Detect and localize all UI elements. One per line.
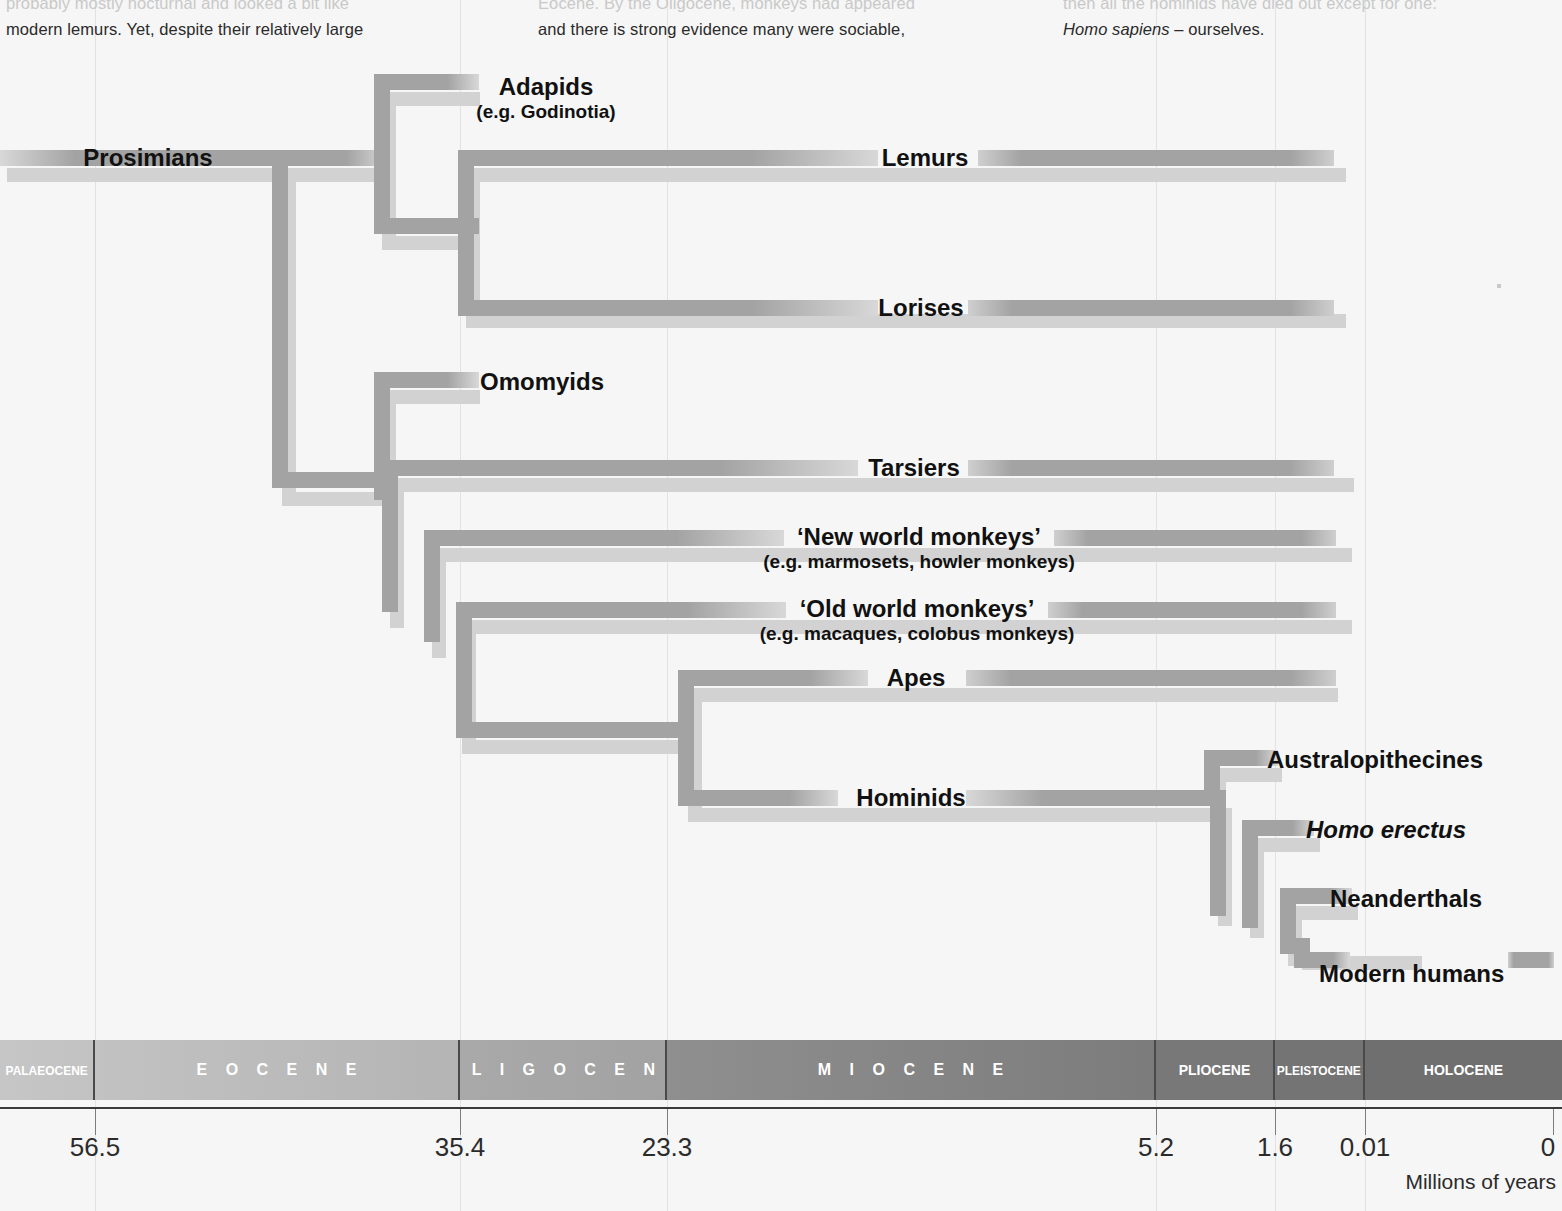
epoch-holocene-label: HOLOCENE <box>1424 1062 1503 1078</box>
epoch-oligocene-label: O L I G O C E N E <box>460 1061 667 1079</box>
new-world-monkeys-example: (e.g. marmosets, howler monkeys) <box>763 551 1075 572</box>
taxon-label-lorises: Lorises <box>878 295 963 322</box>
tick-label-35-4: 35.4 <box>435 1132 486 1163</box>
taxon-label-prosimians: Prosimians <box>83 145 212 172</box>
tick-label-5-2: 5.2 <box>1138 1132 1174 1163</box>
epoch-eocene-label: E O C E N E <box>190 1061 364 1079</box>
epoch-holocene[interactable]: HOLOCENE <box>1365 1040 1562 1100</box>
taxon-label-lemurs: Lemurs <box>882 145 969 172</box>
taxon-label-modern-humans: Modern humans <box>1319 961 1504 988</box>
tick-label-0-01: 0.01 <box>1340 1132 1391 1163</box>
epoch-pliocene[interactable]: PLIOCENE <box>1156 1040 1275 1100</box>
taxon-label-neanderthals: Neanderthals <box>1330 886 1482 913</box>
epoch-pleistocene[interactable]: PLEISTOCENE <box>1275 1040 1365 1100</box>
taxon-label-australopithecines: Australopithecines <box>1267 747 1483 774</box>
geologic-timeline: PALAEOCENE E O C E N E O L I G O C E N E… <box>0 1040 1562 1100</box>
epoch-pliocene-label: PLIOCENE <box>1179 1062 1251 1078</box>
tick-label-0: 0 <box>1541 1132 1555 1163</box>
epoch-palaeocene-label: PALAEOCENE <box>5 1063 87 1078</box>
taxon-label-apes: Apes <box>887 665 946 692</box>
epoch-eocene[interactable]: E O C E N E <box>95 1040 460 1100</box>
tick-label-1-6: 1.6 <box>1257 1132 1293 1163</box>
old-world-monkeys-name: ‘Old world monkeys’ <box>800 595 1035 622</box>
figure-root: probably mostly nocturnal and looked a b… <box>0 0 1562 1211</box>
tick-label-23-3: 23.3 <box>642 1132 693 1163</box>
epoch-miocene[interactable]: M I O C E N E <box>667 1040 1156 1100</box>
old-world-monkeys-example: (e.g. macaques, colobus monkeys) <box>760 623 1075 644</box>
taxon-label-tarsiers: Tarsiers <box>868 455 960 482</box>
time-axis-line <box>0 1107 1562 1109</box>
tick-label-56-5: 56.5 <box>70 1132 121 1163</box>
epoch-palaeocene[interactable]: PALAEOCENE <box>0 1040 95 1100</box>
adapids-name: Adapids <box>499 73 594 100</box>
taxon-label-old-world-monkeys: ‘Old world monkeys’ (e.g. macaques, colo… <box>760 596 1075 644</box>
epoch-pleistocene-label: PLEISTOCENE <box>1277 1063 1361 1078</box>
taxon-label-new-world-monkeys: ‘New world monkeys’ (e.g. marmosets, how… <box>763 524 1075 572</box>
epoch-oligocene[interactable]: O L I G O C E N E <box>460 1040 667 1100</box>
taxon-label-omomyids: Omomyids <box>480 369 604 396</box>
taxon-label-hominids: Hominids <box>856 785 965 812</box>
taxon-label-homo-erectus: Homo erectus <box>1306 817 1466 844</box>
new-world-monkeys-name: ‘New world monkeys’ <box>797 523 1041 550</box>
cladogram-branches <box>0 0 1562 1025</box>
adapids-example: (e.g. Godinotia) <box>476 101 615 122</box>
epoch-miocene-label: M I O C E N E <box>811 1061 1010 1079</box>
axis-unit-label: Millions of years <box>1405 1170 1556 1194</box>
taxon-label-adapids: Adapids (e.g. Godinotia) <box>476 74 615 122</box>
